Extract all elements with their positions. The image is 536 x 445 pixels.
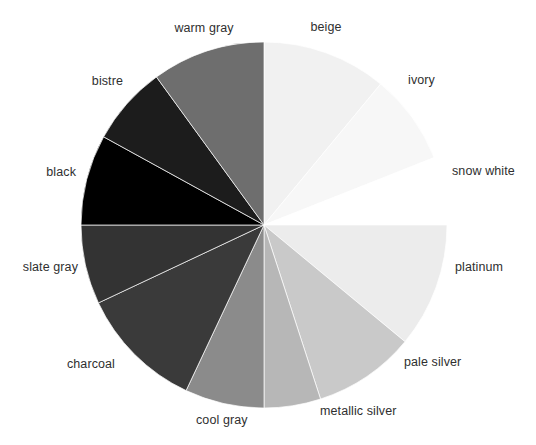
pie-slice-label-snow-white: snow white (452, 165, 515, 179)
pie-slice-label-cool-gray: cool gray (196, 414, 248, 428)
pie-slice-label-black: black (46, 166, 76, 180)
pie-slice-group (81, 42, 447, 408)
pie-slice-label-metallic-silver: metallic silver (320, 405, 397, 419)
pie-slice-label-beige: beige (310, 21, 341, 35)
pie-slice-label-slate-gray: slate gray (23, 261, 78, 275)
pie-slice-label-warm-gray: warm gray (174, 22, 233, 36)
pie-chart-figure: beigeivorysnow whiteplatinumpale silverm… (0, 0, 536, 445)
pie-slice-label-pale-silver: pale silver (404, 356, 461, 370)
pie-slice-label-platinum: platinum (455, 261, 503, 275)
pie-slice-label-ivory: ivory (408, 74, 435, 88)
pie-slice-label-charcoal: charcoal (67, 358, 115, 372)
pie-slice-label-bistre: bistre (92, 75, 123, 89)
pie-chart-canvas (0, 0, 536, 445)
